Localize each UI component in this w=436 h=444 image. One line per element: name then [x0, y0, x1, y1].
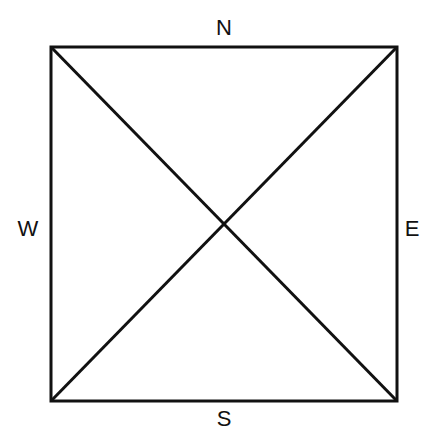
label-south: S [217, 406, 232, 431]
label-west: W [18, 216, 39, 241]
compass-square-diagram: N S W E [0, 0, 436, 444]
label-east: E [405, 216, 420, 241]
label-north: N [216, 15, 232, 40]
